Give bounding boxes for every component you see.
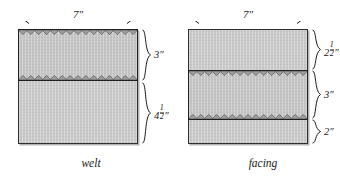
facing-brace-lower-icon [311,119,322,144]
facing-width-label-wrap: 7″ [188,8,308,21]
facing-lower-label: 2″ [324,126,334,138]
facing-upper-label-unit: ″ [334,46,338,57]
facing-width-label: 7″ [238,8,258,21]
welt-strip-pinked-edge-top-icon [19,30,137,35]
welt-lower-label-whole: 4 [154,110,159,121]
diagram-welt: 7″ 3″ 412″ [0,0,170,182]
welt-strip-label: 3″ [154,49,164,61]
facing-strip-label: 3″ [324,89,334,101]
welt-brace-lower-icon [141,82,152,144]
welt-strip-pinked-edge-bottom-icon [19,75,137,80]
facing-upper-label: 212″ [324,41,339,58]
caption-welt: welt [6,156,176,170]
welt-width-dimension: 7″ [18,12,138,30]
welt-fabric-panel [18,29,138,144]
welt-strip-region [18,29,138,81]
welt-lower-label-unit: ″ [164,110,168,121]
figure-root: 7″ 3″ 412″ [0,0,340,182]
facing-strip-pinked-edge-bottom-icon [189,114,307,119]
welt-width-label-wrap: 7″ [18,8,138,21]
facing-brace-upper: 212″ [311,29,322,70]
facing-brace-strip-icon [311,70,322,119]
facing-upper-label-whole: 2 [324,46,329,57]
welt-brace-strip: 3″ [141,29,152,81]
welt-width-label: 7″ [68,8,88,21]
facing-brace-strip: 3″ [311,70,322,119]
welt-brace-lower: 412″ [141,82,152,144]
facing-width-dimension: 7″ [188,12,308,30]
welt-lower-label: 412″ [154,104,169,121]
caption-facing: facing [178,156,340,170]
facing-fabric-panel [188,29,308,144]
facing-brace-upper-icon [311,29,322,70]
diagram-facing: 7″ 212″ 3″ [170,0,340,182]
facing-strip-texture [189,71,307,119]
welt-strip-texture [19,30,137,80]
facing-strip-region [188,70,308,120]
welt-brace-strip-icon [141,29,152,81]
facing-strip-pinked-edge-top-icon [189,71,307,76]
facing-brace-lower: 2″ [311,119,322,144]
